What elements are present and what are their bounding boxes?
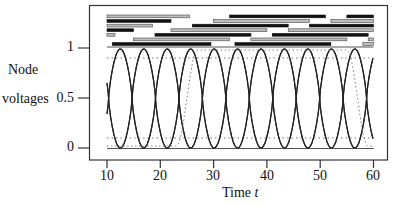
x-tick-40: 40 <box>252 168 282 184</box>
event-bar <box>107 29 134 32</box>
event-bar <box>347 15 374 18</box>
event-bar <box>107 24 152 27</box>
waveform-node-1 <box>107 49 373 148</box>
event-bar <box>112 43 211 46</box>
event-bar <box>107 20 171 23</box>
waveform-node-3 <box>107 49 373 148</box>
event-bar <box>107 33 115 36</box>
event-bar <box>272 33 368 36</box>
y-axis-label-line2: voltages <box>2 91 49 107</box>
event-bar <box>288 29 373 32</box>
event-bar <box>134 38 230 41</box>
event-bar <box>155 33 251 36</box>
event-bar <box>230 15 326 18</box>
event-bar <box>171 29 267 32</box>
x-tick-30: 30 <box>198 168 228 184</box>
event-bar <box>368 38 373 41</box>
y-tick-0: 0 <box>44 139 74 155</box>
x-tick-50: 50 <box>305 168 335 184</box>
x-axis-label: Time t <box>222 185 258 201</box>
y-tick-1: 1 <box>44 39 74 55</box>
event-bar <box>251 38 347 41</box>
x-axis-label-var: t <box>255 185 259 200</box>
waveform-node-4 <box>107 49 373 148</box>
waveform-node-5 <box>107 50 373 146</box>
event-bar <box>363 43 374 46</box>
event-bar <box>310 24 374 27</box>
x-tick-10: 10 <box>92 168 122 184</box>
event-bar <box>107 15 190 18</box>
x-axis-label-text: Time <box>222 185 251 200</box>
event-bar <box>235 43 331 46</box>
y-tick-0.5: 0.5 <box>44 90 74 106</box>
event-bar <box>331 20 374 23</box>
x-tick-60: 60 <box>358 168 388 184</box>
waveform-node-2 <box>107 49 373 148</box>
event-bar <box>214 20 310 23</box>
event-bar <box>192 24 288 27</box>
x-tick-20: 20 <box>145 168 175 184</box>
y-axis-label-line1: Node <box>8 62 38 78</box>
